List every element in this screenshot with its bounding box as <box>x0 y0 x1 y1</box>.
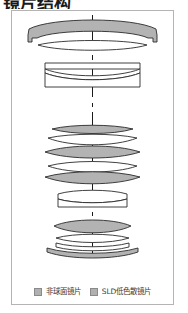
page-title: 镜片结构 <box>3 0 71 9</box>
legend: 非球面镜片 SLD低色散镜片 <box>12 288 173 296</box>
legend-swatch-icon <box>90 288 98 296</box>
legend-item-aspherical: 非球面镜片 <box>34 288 81 296</box>
lens-element-e14 <box>56 234 129 242</box>
lens-element-e6 <box>52 125 133 133</box>
legend-item-label: 非球面镜片 <box>46 288 81 296</box>
legend-swatch-icon <box>34 288 42 296</box>
lens-element-e8 <box>45 146 140 158</box>
lens-element-e2 <box>38 41 147 51</box>
lens-element-e9 <box>48 162 137 173</box>
diagram-frame: .ol{stroke:#2b2b2b;stroke-width:0.9;stro… <box>11 10 174 305</box>
lens-element-e3 <box>45 63 140 69</box>
lens-element-e7 <box>48 134 137 145</box>
lens-element-e10 <box>45 172 140 184</box>
legend-item-sld: SLD低色散镜片 <box>90 288 152 296</box>
title-strip: 镜片结构 <box>0 0 188 9</box>
lens-cross-section-diagram: .ol{stroke:#2b2b2b;stroke-width:0.9;stro… <box>12 11 173 261</box>
legend-item-label: SLD低色散镜片 <box>102 288 152 296</box>
lens-element-e13 <box>54 220 131 233</box>
